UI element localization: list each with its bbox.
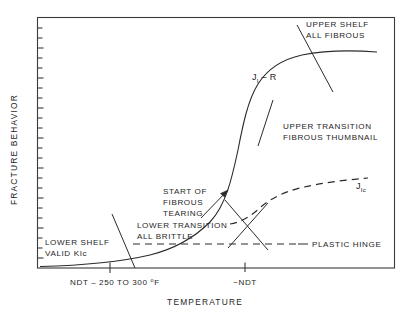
j-r-tail: – R — [259, 72, 277, 82]
curve-j-ic — [230, 178, 368, 224]
upper-transition-leader — [258, 100, 273, 146]
label-j-ic: JIc — [356, 181, 366, 193]
y-axis-ticks — [38, 28, 44, 258]
upper-transition-line1: UPPER TRANSITION — [283, 122, 372, 131]
x-tick-label-ndt-minus: NDT – 250 TO 300 oF — [70, 277, 160, 288]
fracture-behavior-figure: FRACTURE BEHAVIOR TEMPERATURE NDT – 250 … — [0, 0, 410, 315]
start-fibrous-line3: TEARING — [163, 209, 203, 218]
curve-j-r — [40, 51, 377, 267]
plot-frame — [38, 18, 395, 269]
x-axis-label: TEMPERATURE — [167, 297, 243, 307]
annotation-upper-transition: UPPER TRANSITION FIBROUS THUMBNAIL — [283, 122, 378, 142]
x-tick-ndt-dash: – 250 TO 300 — [91, 278, 150, 287]
upper-shelf-line1: UPPER SHELF — [306, 20, 369, 29]
lower-transition-line2: ALL BRITTLE — [137, 232, 193, 241]
start-fibrous-line1: START OF — [163, 187, 207, 196]
annotation-plastic-hinge: PLASTIC HINGE — [312, 240, 381, 249]
x-tick-ndt-main: NDT — [70, 278, 91, 287]
annotation-lower-shelf: LOWER SHELF VALID KIc — [45, 238, 110, 258]
annotation-lower-transition: LOWER TRANSITION ALL BRITTLE — [137, 221, 227, 241]
lower-shelf-line2: VALID KIc — [45, 249, 87, 258]
svg-text:NDT – 250 TO 300 oF: NDT – 250 TO 300 oF — [70, 277, 160, 288]
j-ic-subscript: Ic — [361, 187, 366, 193]
figure-svg: FRACTURE BEHAVIOR TEMPERATURE NDT – 250 … — [0, 0, 410, 315]
start-fibrous-line2: FIBROUS — [163, 198, 203, 207]
x-tick-ndt-unit: F — [154, 278, 160, 287]
lower-transition-line1: LOWER TRANSITION — [137, 221, 227, 230]
upper-shelf-line2: ALL FIBROUS — [306, 31, 365, 40]
x-tick-label-approx-ndt: ~NDT — [233, 278, 257, 287]
y-axis-label: FRACTURE BEHAVIOR — [9, 94, 19, 205]
label-j-r: JI – R — [252, 72, 277, 84]
annotation-start-fibrous-tearing: START OF FIBROUS TEARING — [163, 187, 207, 218]
upper-transition-line2: FIBROUS THUMBNAIL — [283, 133, 378, 142]
lower-shelf-line1: LOWER SHELF — [45, 238, 110, 247]
fibrous-tearing-cross-leader-a — [225, 200, 268, 250]
annotation-upper-shelf: UPPER SHELF ALL FIBROUS — [306, 20, 369, 40]
